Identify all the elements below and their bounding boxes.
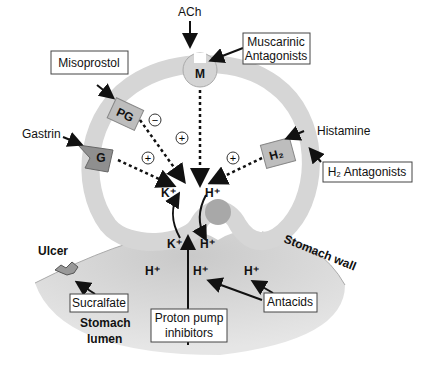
svg-text:Muscarinic: Muscarinic [247, 35, 304, 49]
lumen-label-2: lumen [87, 332, 122, 346]
gastrin-label: Gastrin [22, 127, 61, 141]
svg-text:Antacids: Antacids [267, 295, 313, 309]
svg-text:Misoprostol: Misoprostol [58, 56, 119, 70]
sucralfate-box: Sucralfate [70, 294, 128, 312]
svg-text:Sucralfate: Sucralfate [72, 296, 126, 310]
svg-text:Antagonists: Antagonists [245, 49, 308, 63]
proton-pump [205, 199, 231, 225]
antacids-box: Antacids [264, 293, 317, 312]
acid-secretion-diagram: M PG G H₂ − + + + K⁺ H⁺ K⁺ H⁺ H⁺ H⁺ H⁺ [0, 0, 434, 369]
h2-antagonists-box: H₂ Antagonists [323, 162, 412, 182]
misoprostol-box: Misoprostol [51, 51, 128, 74]
svg-text:inhibitors: inhibitors [165, 326, 213, 340]
ach-label: ACh [178, 5, 201, 19]
sign-markers: − + + + [142, 114, 239, 164]
k-ion-bottom: K⁺ [167, 237, 182, 251]
h-ion-lumen-3: H⁺ [244, 264, 259, 278]
svg-text:M: M [195, 67, 205, 81]
histamine-label: Histamine [317, 124, 371, 138]
h-ion-lumen-2: H⁺ [193, 264, 208, 278]
svg-text:+: + [179, 132, 185, 144]
h-ion-bottom: H⁺ [200, 237, 215, 251]
svg-text:+: + [230, 152, 236, 164]
proton-pump-inhibitors-box: Proton pump inhibitors [151, 309, 227, 342]
svg-text:+: + [145, 152, 151, 164]
svg-text:Proton pump: Proton pump [155, 311, 224, 325]
muscarinic-antagonists-box: Muscarinic Antagonists [243, 33, 310, 64]
svg-text:G: G [96, 151, 105, 165]
m-receptor: M [183, 53, 217, 87]
lumen-label-1: Stomach [80, 316, 131, 330]
svg-text:H₂ Antagonists: H₂ Antagonists [328, 165, 407, 179]
svg-text:−: − [152, 114, 158, 126]
h-ion-top: H⁺ [205, 186, 220, 200]
ulcer-label: Ulcer [38, 244, 68, 258]
h-ion-lumen-1: H⁺ [145, 264, 160, 278]
h2-receptor: H₂ [260, 138, 295, 169]
k-ion-top: K⁺ [161, 186, 176, 200]
signal-arrows [118, 90, 262, 185]
